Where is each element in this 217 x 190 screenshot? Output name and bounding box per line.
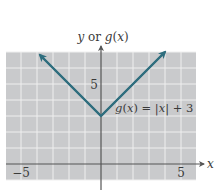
equation-label: g(x) = |x| + 3 [115,101,193,116]
y-axis-label: y or g(x) [76,30,128,44]
y-tick-label-5: 5 [90,78,98,92]
graph-figure: y or g(x) x −5 5 5 g(x) = |x| + 3 [0,0,217,190]
x-tick-label-5: 5 [177,166,185,180]
x-axis-label: x [207,157,214,171]
x-tick-label-neg5: −5 [12,166,30,180]
